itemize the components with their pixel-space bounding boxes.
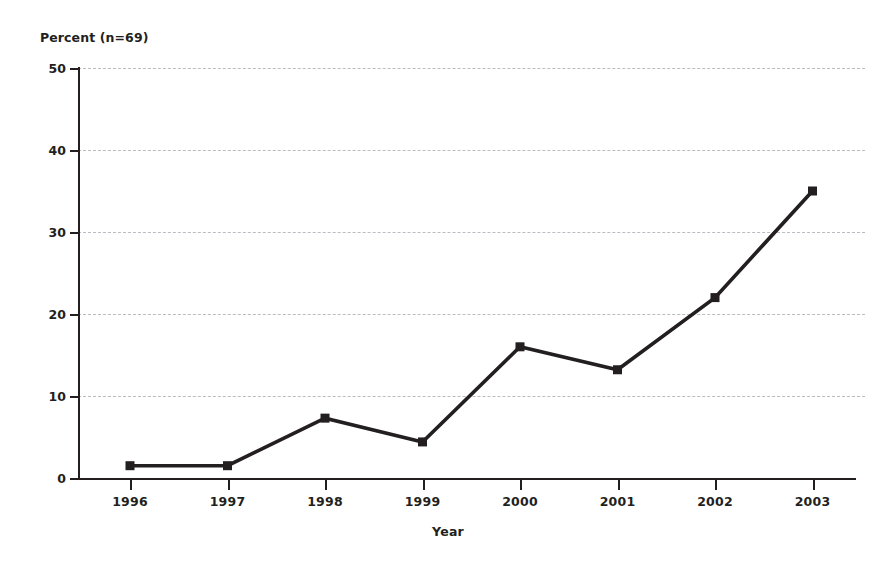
data-point-marker	[126, 461, 135, 470]
chart-figure: Percent (n=69) 01020304050 1996199719981…	[0, 0, 896, 581]
data-point-marker	[613, 365, 622, 374]
data-point-marker	[223, 461, 232, 470]
data-point-marker	[516, 342, 525, 351]
series-line-percent	[130, 191, 813, 466]
data-series-group	[0, 0, 896, 581]
data-point-marker	[418, 437, 427, 446]
series-markers-percent	[126, 187, 818, 471]
x-axis-title: Year	[0, 524, 896, 539]
data-point-marker	[321, 414, 330, 423]
data-point-marker	[711, 293, 720, 302]
data-point-marker	[808, 187, 817, 196]
